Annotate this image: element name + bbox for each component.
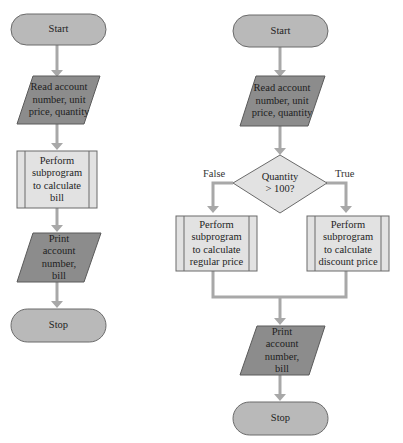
false-branch-label: False <box>203 168 225 179</box>
left-print-label: Print account number, bill <box>25 233 93 282</box>
process-regular-price-label: Perform subprogram to calculate regular … <box>184 216 249 271</box>
left-start-label: Start <box>11 14 106 45</box>
right-read-label: Read account number, unit price, quantit… <box>243 76 321 126</box>
right-print-label: Print account number, bill <box>248 326 316 375</box>
true-branch-label: True <box>335 168 354 179</box>
right-start-label: Start <box>233 15 328 47</box>
process-discount-price-label: Perform subprogram to calculate discount… <box>309 216 387 271</box>
left-read-label: Read account number, unit price, quantit… <box>20 76 98 124</box>
right-stop-label: Stop <box>233 402 328 435</box>
left-stop-label: Stop <box>11 309 106 342</box>
decision-label: Quantity > 100? <box>245 165 315 201</box>
left-process-label: Perform subprogram to calculate bill <box>25 151 89 208</box>
